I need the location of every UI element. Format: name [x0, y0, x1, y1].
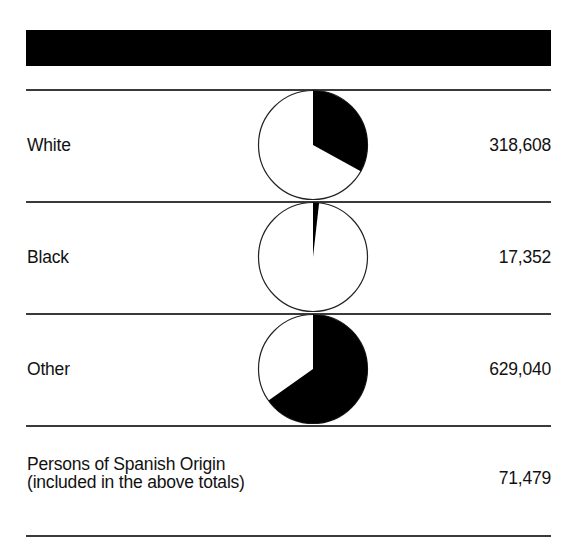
pie-chart-black	[257, 201, 369, 313]
row-value: 318,608	[489, 89, 551, 201]
spanish-origin-label-line1: Persons of Spanish Origin	[27, 455, 245, 473]
row-label: Other	[27, 313, 70, 425]
row-value: 629,040	[489, 313, 551, 425]
pie-chart-white	[257, 89, 369, 201]
spanish-origin-label-line2: (included in the above totals)	[27, 473, 245, 491]
divider-rule	[26, 535, 551, 537]
row-black: Black 17,352	[26, 201, 551, 313]
pie-chart-other	[257, 313, 369, 425]
row-label: Black	[27, 201, 69, 313]
spanish-origin-label: Persons of Spanish Origin (included in t…	[27, 455, 245, 491]
row-value: 17,352	[499, 201, 551, 313]
header-bar	[26, 30, 551, 66]
row-other: Other 629,040	[26, 313, 551, 425]
spanish-origin-value: 71,479	[499, 468, 551, 489]
divider-rule	[26, 425, 551, 427]
row-label: White	[27, 89, 71, 201]
row-white: White 318,608	[26, 89, 551, 201]
